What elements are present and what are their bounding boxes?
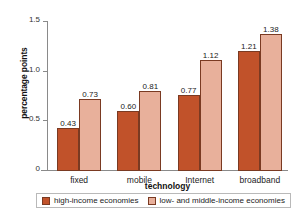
x-axis-title: technology — [47, 181, 288, 191]
y-axis-title: percentage points — [19, 18, 29, 148]
bar: 0.73 — [79, 99, 101, 172]
bar: 0.43 — [57, 128, 79, 171]
bar-group: 0.430.73fixed — [57, 22, 101, 171]
plot-area: 00.51.01.5 0.430.73fixed0.600.81mobile0.… — [47, 22, 288, 171]
bar: 1.12 — [200, 60, 222, 171]
bar-value-label: 0.77 — [181, 86, 197, 95]
bar-value-label: 0.43 — [60, 119, 76, 128]
y-axis-line — [47, 22, 48, 171]
legend-item: low- and middle-income economies — [148, 196, 285, 205]
bar-value-label: 0.73 — [82, 90, 98, 99]
bar: 0.81 — [139, 91, 161, 171]
bar-chart: percentage points 00.51.01.5 0.430.73fix… — [0, 0, 295, 220]
chart-legend: high-income economies low- and middle-in… — [36, 193, 291, 208]
bar-group: 0.600.81mobile — [117, 22, 161, 171]
bar-group: 0.771.12Internet — [178, 22, 222, 171]
legend-swatch-series-1 — [148, 197, 156, 205]
bar: 1.38 — [260, 34, 282, 171]
bar-value-label: 1.38 — [263, 25, 279, 34]
y-axis-tick: 1.5 — [43, 21, 48, 22]
legend-item: high-income economies — [42, 196, 139, 205]
bar: 0.60 — [117, 111, 139, 171]
y-axis-tick: 1.0 — [43, 71, 48, 72]
y-axis-tick-label: 1.0 — [29, 65, 40, 74]
legend-label-series-1: low- and middle-income economies — [160, 196, 285, 205]
y-axis-tick: 0.5 — [43, 120, 48, 121]
bar-value-label: 1.12 — [203, 51, 219, 60]
bar-value-label: 0.60 — [121, 102, 137, 111]
legend-swatch-series-0 — [42, 197, 50, 205]
y-axis-tick: 0 — [43, 170, 48, 171]
bar: 1.21 — [238, 51, 260, 171]
bar-group: 1.211.38broadband — [238, 22, 282, 171]
bar-value-label: 0.81 — [143, 82, 159, 91]
y-axis-tick-label: 0.5 — [29, 114, 40, 123]
bar: 0.77 — [178, 95, 200, 171]
bar-value-label: 1.21 — [241, 42, 257, 51]
y-axis-tick-label: 1.5 — [29, 15, 40, 24]
y-axis-tick-label: 0 — [36, 164, 40, 173]
legend-label-series-0: high-income economies — [54, 196, 139, 205]
